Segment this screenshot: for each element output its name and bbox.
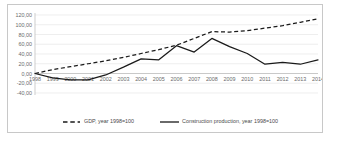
x-axis-tick-label: 2003 — [117, 76, 129, 82]
line-chart: 120,00100,0080,0060,0040,0020,000,00-20,… — [8, 5, 322, 132]
y-axis-tick-label: -40,00 — [17, 90, 32, 96]
y-axis-tick-label: 80,00 — [19, 32, 33, 38]
x-axis-tick-label: 2005 — [153, 76, 165, 82]
y-axis-tick-label: 20,00 — [19, 61, 33, 67]
x-axis-tick-label: 2011 — [259, 76, 271, 82]
legend-label-gdp: GDP, year 1998=100 — [84, 118, 134, 124]
x-axis-tick-label: 2007 — [188, 76, 200, 82]
x-axis-tick-label: 1998 — [29, 76, 41, 82]
x-axis-tick-label: 2004 — [135, 76, 147, 82]
y-axis-tick-label: 120,00 — [16, 12, 33, 18]
x-axis-tick-label: 2008 — [206, 76, 218, 82]
x-axis-tick-label: 2000 — [64, 76, 76, 82]
x-axis-tick-label: 2010 — [241, 76, 253, 82]
x-axis-tick-label: 2012 — [277, 76, 289, 82]
y-axis-tick-label: 40,00 — [19, 51, 33, 57]
y-axis-tick-label: 60,00 — [19, 41, 33, 47]
x-axis-tick-label: 2014 — [312, 76, 322, 82]
x-axis-tick-label: 2009 — [224, 76, 236, 82]
legend-label-construction: Construction production, year 1998=100 — [182, 118, 278, 124]
x-axis-tick-label: 2013 — [294, 76, 306, 82]
x-axis-tick-label: 2006 — [171, 76, 183, 82]
y-axis-tick-label: 100,00 — [16, 22, 33, 28]
chart-container: 120,00100,0080,0060,0040,0020,000,00-20,… — [7, 4, 323, 133]
